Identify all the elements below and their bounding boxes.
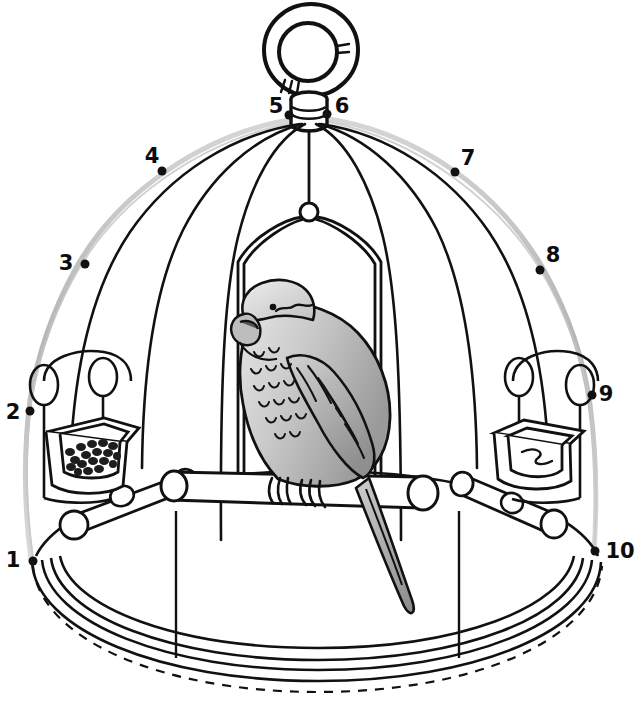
- callout-label-9: 9: [599, 382, 614, 406]
- callout-label-8: 8: [546, 243, 561, 267]
- callout-dot-2: [26, 407, 35, 416]
- callout-dot-1: [29, 557, 38, 566]
- callout-label-5: 5: [269, 94, 284, 118]
- callout-label-2: 2: [6, 400, 21, 424]
- callout-label-1: 1: [6, 548, 21, 572]
- callout-dot-3: [81, 260, 90, 269]
- callout-dot-6: [323, 110, 332, 119]
- callout-label-6: 6: [335, 94, 350, 118]
- parrot-eye: [270, 304, 277, 311]
- bird-cage-diagram: 1 2 3 4 5 6 7 8: [0, 0, 644, 721]
- callout-dot-10: [591, 547, 600, 556]
- parrot-beak: [231, 314, 260, 345]
- water-dish: [494, 420, 584, 489]
- swing-hook: [300, 203, 318, 221]
- callout-label-7: 7: [461, 146, 476, 170]
- callout-label-3: 3: [59, 251, 74, 275]
- diagram-canvas: 1 2 3 4 5 6 7 8: [0, 0, 644, 721]
- callout-dot-9: [588, 391, 597, 400]
- callout-label-10: 10: [605, 539, 634, 563]
- callout-dot-5: [285, 111, 294, 120]
- callout-dot-8: [536, 266, 545, 275]
- callout-dot-7: [451, 168, 460, 177]
- callout-label-4: 4: [145, 144, 160, 168]
